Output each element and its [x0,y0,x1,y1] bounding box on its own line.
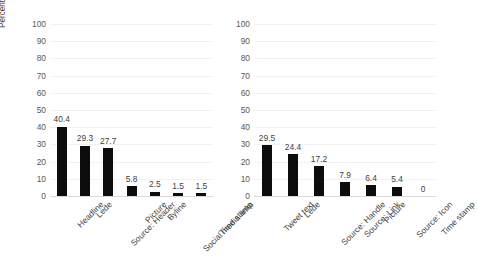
bar-value-label: 6.4 [365,174,377,183]
bar [340,182,350,196]
bar-slot: 2.5 [143,24,166,196]
y-axis-tick-label: 70 [20,72,46,80]
bar-slot: 7.9 [332,24,358,196]
y-axis-tick-label: 70 [224,72,250,80]
y-axis-tick-label: 100 [224,20,250,28]
bar-slot: 27.7 [97,24,120,196]
y-axis-title-container: Percent who select each element as impor… [0,10,12,210]
y-axis-tick-label: 40 [224,123,250,131]
chart-panel-news-article-elements: Percent who select each element as impor… [0,0,222,265]
bar-slot: 29.3 [73,24,96,196]
bar-slot: 29.5 [254,24,280,196]
y-axis-tick-label: 60 [224,89,250,97]
y-axis-tick-label: 10 [20,175,46,183]
bar [127,186,137,196]
bar-slot: 17.2 [306,24,332,196]
bar-value-label: 1.5 [172,182,184,191]
bar-slot: 1.5 [166,24,189,196]
bar [57,127,67,196]
plot-area-left: 0102030405060708090100 40.429.327.75.82.… [50,24,213,196]
bar-value-label: 0 [421,185,426,194]
bar [392,187,402,196]
bar-slot: 40.4 [50,24,73,196]
bar-group-left: 40.429.327.75.82.51.51.5 [50,24,213,196]
x-axis-tick-label: Picture [383,200,408,225]
bar-slot: 5.4 [384,24,410,196]
y-axis-tick-label: 0 [224,192,250,200]
y-axis-tick-label: 10 [224,175,250,183]
y-axis-tick-label: 0 [20,192,46,200]
bar-value-label: 17.2 [311,155,327,164]
y-axis-tick-label: 40 [20,123,46,131]
y-axis-tick-label: 50 [20,106,46,114]
bar [288,154,298,196]
bar-value-label: 5.4 [391,175,403,184]
bar-slot: 1.5 [190,24,213,196]
bar-value-label: 1.5 [196,182,208,191]
bar-slot: 24.4 [280,24,306,196]
y-axis-tick-label: 20 [20,158,46,166]
bar [80,146,90,196]
bar [366,185,376,196]
y-axis-tick-label: 90 [20,37,46,45]
y-axis-tick-label: 30 [20,140,46,148]
bar-slot: 5.8 [120,24,143,196]
y-axis-tick-label: 100 [20,20,46,28]
y-axis-title: Percent who select each element as impor… [0,0,10,38]
y-axis-tick-label: 20 [224,158,250,166]
plot-area-right: 0102030405060708090100 29.524.417.27.96.… [254,24,436,196]
y-axis-tick-label: 90 [224,37,250,45]
x-axis-labels-right: Tweet textLedeSource: HandleSource: Link… [254,196,436,265]
bar [262,145,272,196]
bar-value-label: 7.9 [339,171,351,180]
y-axis-tick-label: 80 [224,54,250,62]
bar-group-right: 29.524.417.27.96.45.40 [254,24,436,196]
bar-slot: 6.4 [358,24,384,196]
bar-value-label: 5.8 [126,175,138,184]
bar [314,166,324,196]
bar [103,148,113,196]
bar-value-label: 29.5 [259,134,275,143]
bar-value-label: 40.4 [53,115,69,124]
y-axis-tick-label: 80 [20,54,46,62]
y-axis-tick-label: 30 [224,140,250,148]
chart-panel-tweet-elements: 0102030405060708090100 29.524.417.27.96.… [222,0,447,265]
x-axis-labels-left: HeadlineLedeSource: HeaderPictureBylineS… [50,196,213,265]
bar-slot: 0 [410,24,436,196]
bar-value-label: 24.4 [285,143,301,152]
bar-value-label: 27.7 [100,137,116,146]
bar-value-label: 29.3 [77,134,93,143]
y-axis-tick-label: 60 [20,89,46,97]
y-axis-tick-label: 50 [224,106,250,114]
bar-value-label: 2.5 [149,180,161,189]
